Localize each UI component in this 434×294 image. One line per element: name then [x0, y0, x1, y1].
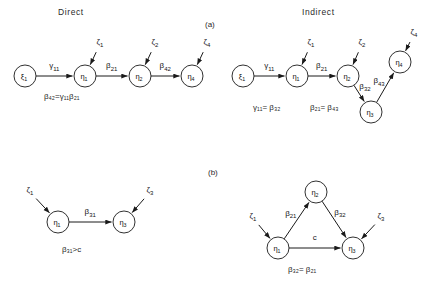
disturbance-label-zeta2: ζ2 — [152, 37, 160, 48]
disturbance-label-zeta3: ζ3 — [147, 185, 155, 196]
nodes-layer: ξ1η1η2η4ξ1η1η2η3η4η1η3η2η1η3 — [14, 51, 411, 259]
edge-label-xi1-to-eta1: γ11 — [264, 61, 275, 72]
node-eta3: η3 — [360, 101, 382, 123]
disturbance-arrow-zeta2 — [353, 52, 358, 64]
disturbance-arrow-zeta3 — [132, 199, 144, 213]
edge-label-eta2-to-eta4: β42 — [160, 61, 172, 72]
node-xi1: ξ1 — [232, 65, 254, 87]
edge-label-eta2-to-eta3: β32 — [359, 82, 371, 93]
disturbance-label-zeta1: ζ1 — [308, 37, 316, 48]
disturbance-label-zeta1: ζ1 — [27, 185, 35, 196]
disturbance-label-zeta1: ζ1 — [250, 211, 258, 222]
path-diagram-figure: Direct Indirect (a) (b) β₄₂=γ₁₁β₂₁ γ₁₁= … — [0, 0, 434, 294]
edge-label-eta2-to-eta3: β32 — [334, 208, 346, 219]
disturbance-arrow-zeta3 — [362, 225, 375, 239]
disturbance-arrow-zeta1 — [90, 52, 96, 65]
node-eta2: η2 — [337, 65, 359, 87]
node-eta3: η3 — [342, 237, 364, 259]
edge-eta3-to-eta4 — [377, 73, 394, 103]
edge-label-eta1-to-eta2: β21 — [106, 61, 118, 72]
edge-label-eta1-to-eta3: c — [313, 233, 317, 242]
node-eta3: η3 — [113, 211, 135, 233]
edge-label-xi1-to-eta1: γ11 — [49, 61, 60, 72]
disturbance-label-zeta4: ζ4 — [411, 27, 419, 38]
node-eta4: η4 — [181, 65, 203, 87]
node-eta1: η1 — [74, 65, 96, 87]
disturbance-label-zeta3: ζ3 — [378, 211, 386, 222]
node-eta2: η2 — [305, 181, 327, 203]
edge-label-eta3-to-eta4: β43 — [373, 76, 385, 87]
disturbance-arrow-zeta1 — [302, 52, 307, 64]
edge-label-eta1-to-eta2: β21 — [285, 209, 297, 220]
disturbance-arrow-zeta1 — [259, 225, 270, 238]
disturbance-arrow-zeta1 — [36, 199, 49, 213]
node-xi1: ξ1 — [14, 65, 36, 87]
edge-label-eta1-to-eta2: β21 — [316, 61, 328, 72]
node-eta4: η4 — [389, 51, 411, 73]
disturbance-label-zeta2: ζ2 — [359, 37, 367, 48]
diagram-canvas: ξ1η1η2η4ξ1η1η2η3η4η1η3η2η1η3 γ11β21β42ζ1… — [0, 0, 434, 294]
node-eta1: η1 — [286, 65, 308, 87]
disturbance-arrow-zeta4 — [197, 52, 203, 65]
edge-labels-layer: γ11β21β42ζ1ζ2ζ4γ11β21β32β43ζ1ζ2ζ4β31ζ1ζ3… — [27, 27, 419, 242]
node-eta1: η1 — [267, 237, 289, 259]
disturbance-arrow-zeta4 — [406, 42, 410, 51]
node-eta1: η1 — [47, 211, 69, 233]
edge-label-eta1-to-eta3: β31 — [85, 207, 97, 218]
node-eta2: η2 — [129, 65, 151, 87]
disturbance-label-zeta4: ζ4 — [204, 37, 212, 48]
disturbance-label-zeta1: ζ1 — [97, 37, 105, 48]
disturbance-arrow-zeta2 — [145, 52, 151, 65]
